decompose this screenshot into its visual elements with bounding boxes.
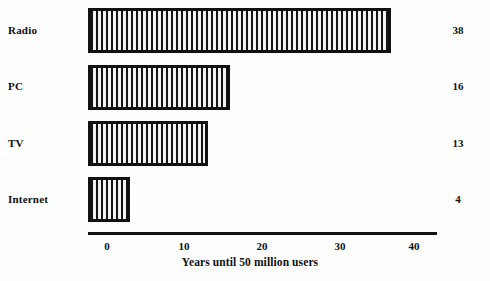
x-axis-title: Years until 50 million users [0, 256, 490, 268]
x-axis-line [88, 232, 437, 235]
bar-tv [88, 121, 208, 166]
bar-pc [88, 65, 230, 110]
x-tick-label-20: 20 [247, 240, 277, 253]
category-label-pc: PC [8, 80, 86, 92]
category-label-internet: Internet [8, 193, 86, 205]
bar-radio [88, 8, 391, 53]
bar-chart: Radio PC TV Internet 38 16 13 4 0 10 20 … [0, 0, 490, 281]
x-tick-label-30: 30 [325, 240, 355, 253]
bar-internet [88, 177, 130, 222]
x-tick-label-10: 10 [169, 240, 199, 253]
value-label-radio: 38 [438, 24, 478, 36]
value-label-internet: 4 [438, 193, 478, 205]
category-label-tv: TV [8, 137, 86, 149]
category-label-radio: Radio [8, 24, 86, 36]
x-axis-title-text: Years until 50 million users [182, 256, 318, 268]
value-label-tv: 13 [438, 137, 478, 149]
value-label-pc: 16 [438, 80, 478, 92]
x-tick-label-0: 0 [92, 240, 122, 253]
x-tick-label-40: 40 [399, 240, 429, 253]
